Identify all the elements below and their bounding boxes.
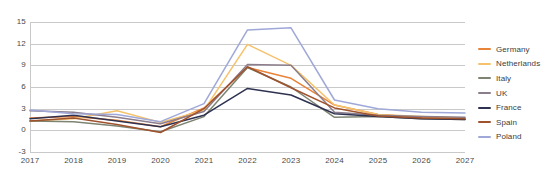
x-axis-tick-label: 2024 (325, 156, 344, 165)
x-axis-tick-label: 2025 (369, 156, 388, 165)
legend-item[interactable]: Italy (478, 71, 555, 86)
legend-swatch-icon (478, 48, 491, 50)
x-axis-tick-labels: 2017201820192020202120222023202420252026… (30, 156, 465, 170)
legend-item-label: Italy (496, 74, 511, 83)
x-axis-tick-label: 2026 (412, 156, 431, 165)
y-axis-tick-label: 15 (0, 18, 26, 26)
legend-item[interactable]: UK (478, 86, 555, 101)
legend-item-label: Germany (496, 45, 530, 54)
series-line (30, 68, 465, 132)
y-axis-tick-label: -3 (0, 148, 26, 156)
chart-root: 15129630-3 20172018201920202021202220232… (0, 0, 555, 188)
legend-item[interactable]: France (478, 100, 555, 115)
legend-item-label: France (496, 103, 522, 112)
legend-item[interactable]: Spain (478, 115, 555, 130)
y-axis-tick-label: 12 (0, 40, 26, 48)
legend-swatch-icon (478, 107, 491, 109)
series-lines (30, 22, 465, 152)
y-axis-tick-label: 6 (0, 83, 26, 91)
y-axis-tick-label: 9 (0, 61, 26, 69)
legend-item-label: UK (496, 89, 507, 98)
legend-swatch-icon (478, 121, 491, 123)
series-line (30, 28, 465, 122)
x-axis-tick-label: 2023 (282, 156, 301, 165)
legend-item[interactable]: Poland (478, 130, 555, 145)
y-axis-tick-label: 3 (0, 105, 26, 113)
x-axis-tick-label: 2020 (151, 156, 170, 165)
line-chart: 15129630-3 20172018201920202021202220232… (0, 0, 480, 188)
legend-swatch-icon (478, 77, 491, 79)
gridline (30, 152, 465, 153)
legend-item[interactable]: Germany (478, 42, 555, 57)
legend-item[interactable]: Netherlands (478, 57, 555, 72)
x-axis-tick-label: 2019 (108, 156, 127, 165)
chart-legend: GermanyNetherlandsItalyUKFranceSpainPola… (478, 42, 555, 144)
x-axis-tick-label: 2027 (456, 156, 475, 165)
x-axis-tick-label: 2021 (195, 156, 214, 165)
x-axis-tick-label: 2017 (21, 156, 40, 165)
legend-item-label: Spain (496, 118, 517, 127)
legend-item-label: Poland (496, 132, 522, 141)
x-axis-tick-label: 2018 (64, 156, 83, 165)
plot-area (30, 22, 465, 152)
legend-swatch-icon (478, 63, 491, 65)
legend-swatch-icon (478, 136, 491, 138)
y-axis-tick-label: 0 (0, 126, 26, 134)
legend-swatch-icon (478, 92, 491, 94)
legend-item-label: Netherlands (496, 59, 540, 68)
series-line (30, 67, 465, 133)
y-axis-tick-labels: 15129630-3 (0, 22, 26, 152)
x-axis-tick-label: 2022 (238, 156, 257, 165)
